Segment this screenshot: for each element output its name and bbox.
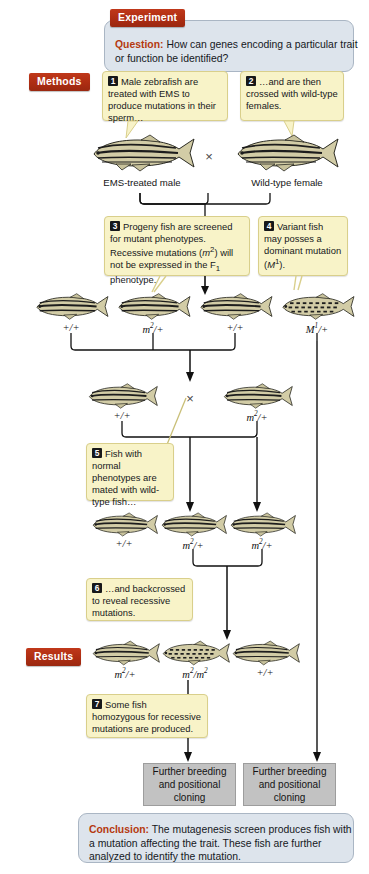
figure-canvas: Experiment Question: How can genes encod…	[0, 0, 369, 874]
outcome-box-left: Further breeding and positional cloning	[143, 763, 236, 806]
outcome-box-right: Further breeding and positional cloning	[243, 763, 336, 806]
conclusion-keyword: Conclusion:	[89, 824, 149, 835]
conclusion-text: Conclusion: The mutagenesis screen produ…	[80, 817, 368, 871]
step7-arrow	[0, 0, 369, 874]
